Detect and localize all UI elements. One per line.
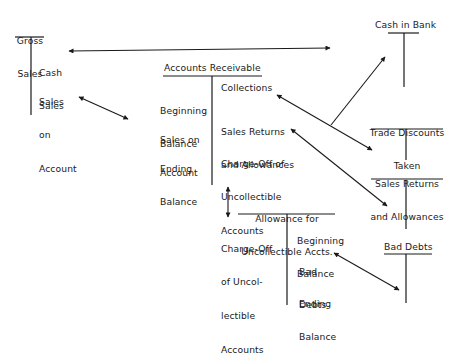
text-line: Sales [39, 96, 77, 107]
arrow-cash-sales-to-cash-in-bank [69, 48, 330, 51]
text-line: Sales Returns [369, 178, 445, 189]
text-line: and Allowances [369, 211, 445, 222]
text-line: Accounts [221, 344, 272, 355]
text-line: Ending [160, 163, 197, 174]
text-line: Account [39, 163, 77, 174]
accounts-receivable-title: Accounts Receivable [164, 62, 261, 73]
text-line: Charge-Off [221, 243, 272, 254]
sales-returns-title: Sales Returns and Allowances [369, 155, 445, 245]
text-line: Trade Discounts [369, 127, 445, 138]
text-line: on [39, 129, 77, 140]
text-line: Balance [299, 331, 336, 342]
cash-in-bank-title: Cash in Bank [375, 19, 436, 30]
text-line: Balance [160, 196, 197, 207]
text-line: Ending [299, 298, 336, 309]
ar-collections: Collections [221, 82, 272, 93]
allowance-charge-off: Charge-Off of Uncol- lectible Accounts [221, 220, 272, 357]
text-line: lectible [221, 310, 272, 321]
text-line: Charge-Off of [221, 158, 284, 169]
arrow-sales-on-account [79, 97, 128, 119]
bad-debts-title: Bad Debts [384, 241, 433, 252]
ar-ending-balance: Ending Balance [160, 140, 197, 230]
gross-sales-sales-on-account: Sales on Account [39, 73, 77, 197]
text-line: of Uncol- [221, 276, 272, 287]
allowance-ending-balance: Ending Balance [299, 275, 336, 357]
